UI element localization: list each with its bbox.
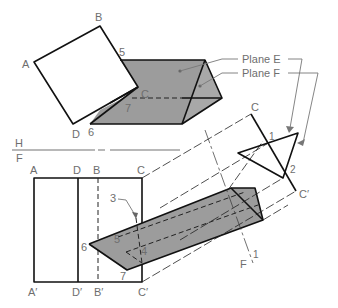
label-4: 4 xyxy=(141,245,147,257)
label-front-b-prime: B′ xyxy=(94,286,103,298)
label-3: 3 xyxy=(110,192,116,204)
fold-label-f1-1: 1 xyxy=(253,249,259,260)
fold-label-h: H xyxy=(15,137,23,149)
auxiliary-view: C C′ 1 2 xyxy=(238,101,309,200)
label-5-front: 5 xyxy=(114,233,120,245)
plane-f-label: Plane F xyxy=(242,67,280,79)
label-aux-1: 1 xyxy=(269,131,275,142)
label-6: 6 xyxy=(88,126,94,138)
label-front-a-prime: A′ xyxy=(28,286,37,298)
label-d: D xyxy=(72,128,80,140)
label-aux-2: 2 xyxy=(290,164,296,175)
plane-f-arrowhead-icon xyxy=(297,139,305,146)
fold-label-f: F xyxy=(16,152,23,164)
label-7: 7 xyxy=(125,102,131,114)
label-front-d: D xyxy=(73,164,81,176)
label-front-c-prime: C′ xyxy=(138,286,148,298)
projection-diagram: A B C D 5 6 7 Plane E Plane F H F xyxy=(0,0,338,308)
point-3-arrowhead-icon xyxy=(132,212,138,219)
label-6-front: 6 xyxy=(81,241,87,253)
plate-edge-view xyxy=(251,114,296,191)
label-b: B xyxy=(95,11,102,23)
plane-e-label: Plane E xyxy=(242,53,281,65)
plane-f-arrow-line xyxy=(288,73,318,143)
label-front-c: C xyxy=(137,164,145,176)
label-front-b: B xyxy=(93,164,100,176)
label-c: C xyxy=(141,88,149,100)
fold-line-hf: H F xyxy=(12,137,180,164)
label-a: A xyxy=(22,58,30,70)
plane-e-arrowhead-icon xyxy=(286,126,294,133)
label-front-d-prime: D′ xyxy=(72,286,82,298)
label-7-front: 7 xyxy=(120,270,126,282)
label-aux-c: C xyxy=(251,101,259,113)
label-aux-c-prime: C′ xyxy=(299,188,309,200)
label-front-a: A xyxy=(30,164,38,176)
label-5: 5 xyxy=(119,46,125,58)
top-view: A B C D 5 6 7 xyxy=(22,11,222,140)
fold-label-f1-f: F xyxy=(240,258,247,270)
plane-e-arrow-line xyxy=(288,59,302,128)
